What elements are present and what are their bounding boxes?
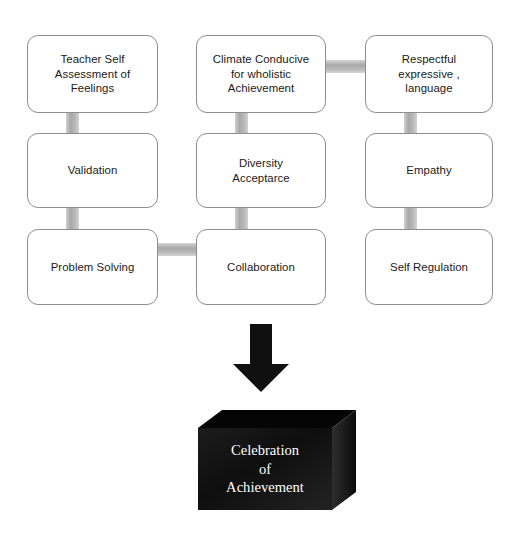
node-diversity-acceptance[interactable]: Diversity Acceptarce [196, 133, 326, 208]
node-respectful-expressive-language[interactable]: Respectful expressive , language [365, 35, 493, 113]
node-empathy[interactable]: Empathy [365, 133, 493, 208]
node-label: Diversity Acceptarce [232, 156, 289, 185]
node-label: Teacher Self Assessment of Feelings [55, 52, 130, 96]
node-self-regulation[interactable]: Self Regulation [365, 229, 493, 305]
node-label: Self Regulation [390, 260, 468, 275]
node-label: Climate Conducive for wholistic Achievem… [213, 52, 309, 96]
node-collaboration[interactable]: Collaboration [196, 229, 326, 305]
node-teacher-self-assessment[interactable]: Teacher Self Assessment of Feelings [27, 35, 158, 113]
node-climate-conducive[interactable]: Climate Conducive for wholistic Achievem… [196, 35, 326, 113]
node-problem-solving[interactable]: Problem Solving [27, 229, 158, 305]
node-label: Empathy [406, 163, 451, 178]
down-arrow-icon [229, 324, 293, 392]
connector-climate-conducive-to-respectful-expressive-language [318, 60, 372, 73]
node-label: Problem Solving [51, 260, 135, 275]
node-validation[interactable]: Validation [27, 133, 158, 208]
node-label: Respectful expressive , language [398, 52, 459, 96]
celebration-cube[interactable] [198, 410, 356, 510]
node-label: Validation [68, 163, 118, 178]
flowchart-diagram: Teacher Self Assessment of Feelings Clim… [0, 0, 518, 546]
node-label: Collaboration [227, 260, 295, 275]
